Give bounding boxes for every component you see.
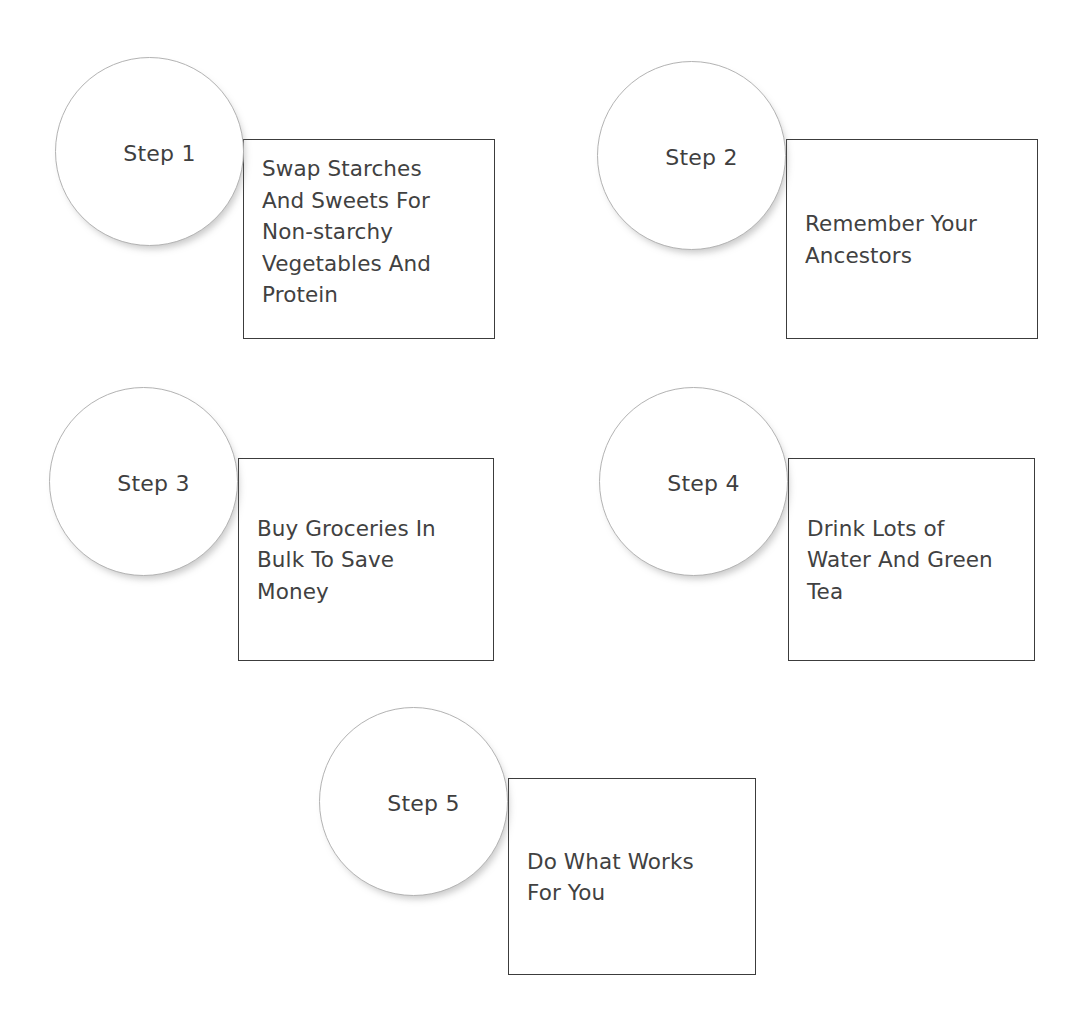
step-circle-5[interactable]: Step 5 [319, 707, 508, 896]
step-box-5[interactable]: Do What Works For You [508, 778, 756, 975]
step-box-3[interactable]: Buy Groceries In Bulk To Save Money [238, 458, 494, 661]
step-circle-4[interactable]: Step 4 [599, 387, 788, 576]
step-circle-label-4: Step 4 [667, 473, 739, 495]
process-diagram: Swap Starches And Sweets For Non-starchy… [0, 0, 1070, 1015]
step-box-1[interactable]: Swap Starches And Sweets For Non-starchy… [243, 139, 495, 339]
step-box-text-2: Remember Your Ancestors [805, 208, 1027, 271]
step-box-2[interactable]: Remember Your Ancestors [786, 139, 1038, 339]
step-circle-2[interactable]: Step 2 [597, 61, 786, 250]
step-box-text-1: Swap Starches And Sweets For Non-starchy… [262, 153, 484, 311]
step-circle-label-1: Step 1 [123, 143, 195, 165]
step-box-text-3: Buy Groceries In Bulk To Save Money [257, 512, 483, 607]
step-box-text-5: Do What Works For You [527, 845, 745, 908]
step-box-text-4: Drink Lots of Water And Green Tea [807, 512, 1024, 607]
step-box-4[interactable]: Drink Lots of Water And Green Tea [788, 458, 1035, 661]
step-circle-1[interactable]: Step 1 [55, 57, 244, 246]
step-circle-label-3: Step 3 [117, 473, 189, 495]
step-circle-3[interactable]: Step 3 [49, 387, 238, 576]
step-circle-label-5: Step 5 [387, 793, 459, 815]
step-circle-label-2: Step 2 [665, 147, 737, 169]
